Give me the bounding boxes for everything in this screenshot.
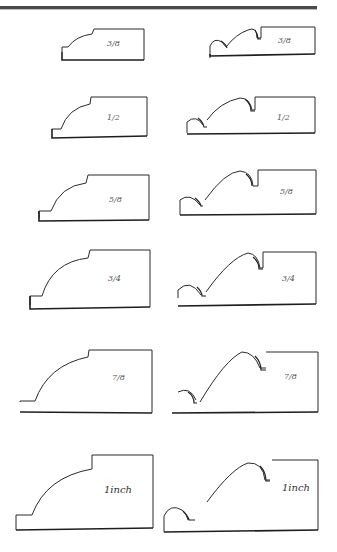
left-profile-3-4 (30, 250, 150, 309)
left-profile-1-2 (52, 97, 147, 138)
left-label-7-8: 7/8 (112, 373, 125, 382)
right-label-7-8: 7/8 (284, 372, 297, 381)
right-label-1inch: 1inch (282, 482, 310, 493)
right-profile-3-8 (210, 27, 315, 58)
left-profile-3-8 (62, 29, 144, 60)
right-label-3-4: 3/4 (282, 274, 295, 283)
left-profile-5-8 (39, 175, 149, 221)
left-label-1-2: 1/2 (107, 113, 120, 122)
left-profile-7-8 (20, 350, 152, 413)
right-profile-3-4 (178, 252, 316, 306)
right-profile-5-8 (180, 170, 316, 215)
left-label-5-8: 5/8 (109, 195, 122, 204)
right-label-5-8: 5/8 (280, 187, 293, 196)
right-profile-1inch (164, 460, 318, 532)
right-profile-1-2 (187, 97, 315, 134)
left-label-1inch: 1inch (104, 484, 132, 495)
left-label-3-8: 3/8 (107, 39, 120, 48)
right-profile-7-8 (172, 352, 318, 413)
left-profile-1inch (16, 455, 153, 530)
right-label-1-2: 1/2 (277, 113, 290, 122)
right-label-3-8: 3/8 (278, 36, 291, 45)
left-label-3-4: 3/4 (108, 274, 121, 283)
